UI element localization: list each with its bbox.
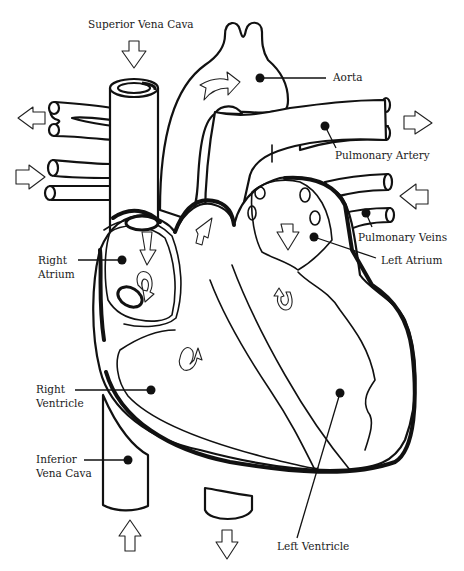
label-right-ventricle-line1: Right xyxy=(36,382,84,396)
label-right-atrium-line1: Right xyxy=(38,253,75,267)
descending-aorta xyxy=(205,488,252,519)
label-left-atrium: Left Atrium xyxy=(381,253,442,267)
label-right-atrium: Right Atrium xyxy=(38,253,75,281)
arrow-down-icon xyxy=(216,530,238,559)
label-left-ventricle: Left Ventricle xyxy=(277,539,349,553)
right-pulmonary-veins xyxy=(45,160,112,200)
label-right-ventricle-line2: Ventricle xyxy=(36,396,84,410)
heart-diagram xyxy=(0,0,464,571)
right-pulmonary-artery-branches xyxy=(49,102,112,140)
arrow-left-icon xyxy=(18,107,45,129)
label-superior-vena-cava: Superior Vena Cava xyxy=(88,17,194,31)
arrow-up-icon xyxy=(119,520,141,551)
arrow-left-icon xyxy=(400,184,428,209)
arrow-down-icon xyxy=(122,41,146,68)
arrow-right-icon xyxy=(16,165,45,189)
label-right-atrium-line2: Atrium xyxy=(38,267,75,281)
label-aorta: Aorta xyxy=(333,70,362,84)
label-pulmonary-artery: Pulmonary Artery xyxy=(335,148,430,162)
label-right-ventricle: Right Ventricle xyxy=(36,382,84,410)
label-inferior-vena-cava-line2: Vena Cava xyxy=(36,466,92,480)
label-inferior-vena-cava: Inferior Vena Cava xyxy=(36,452,92,480)
label-inferior-vena-cava-line1: Inferior xyxy=(36,452,92,466)
arrow-right-icon xyxy=(404,111,432,134)
label-pulmonary-veins: Pulmonary Veins xyxy=(358,230,447,244)
